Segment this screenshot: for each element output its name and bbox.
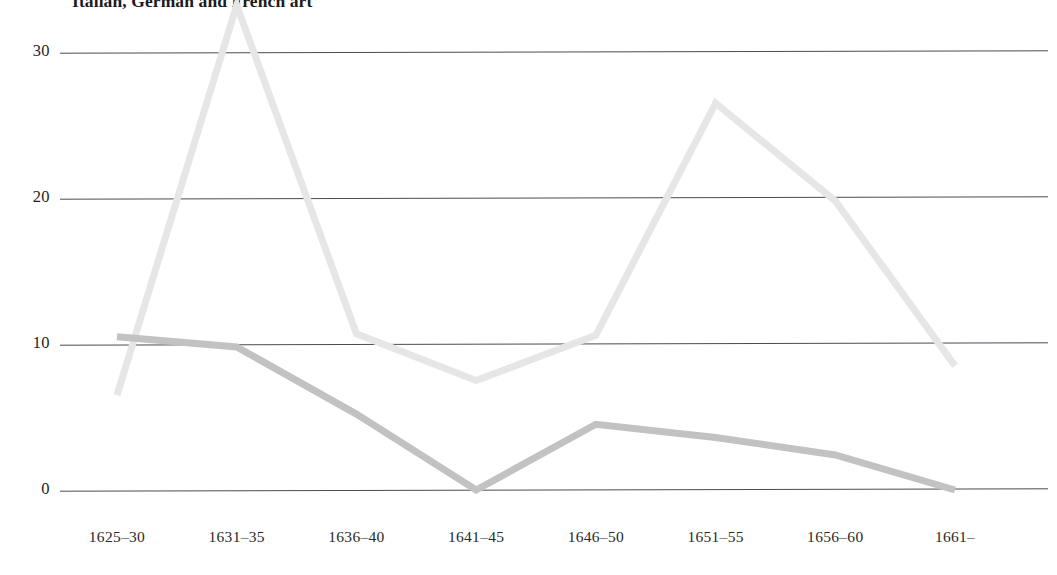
x-tick-label-0: 1625–30: [89, 528, 145, 546]
x-tick-label-2: 1636–40: [328, 528, 384, 546]
gridlines-group: [60, 51, 1048, 491]
y-tick-label-10: 10: [4, 333, 50, 353]
data-series-group: [117, 5, 955, 490]
gridline-20: [60, 197, 1048, 199]
chart-container: Italian, German and French art 3020100 1…: [0, 0, 1057, 575]
x-tick-label-7: 1661–: [935, 528, 975, 546]
x-tick-label-1: 1631–35: [209, 528, 265, 546]
plot-area: [0, 0, 1057, 575]
line-series-light-series: [117, 5, 955, 395]
x-tick-label-4: 1646–50: [568, 528, 624, 546]
gridline-30: [60, 51, 1048, 53]
y-tick-label-30: 30: [4, 41, 50, 61]
x-tick-label-6: 1656–60: [807, 528, 863, 546]
gridline-0: [60, 489, 1048, 491]
chart-plot-svg: [0, 0, 1057, 575]
x-tick-label-5: 1651–55: [687, 528, 743, 546]
y-tick-label-20: 20: [4, 187, 50, 207]
y-tick-label-0: 0: [4, 479, 50, 499]
x-tick-label-3: 1641–45: [448, 528, 504, 546]
